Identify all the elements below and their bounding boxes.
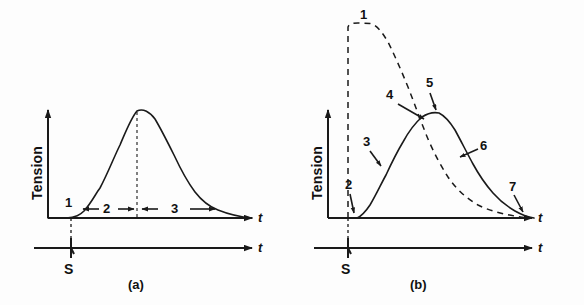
panel-a-label-2: 2: [103, 202, 110, 215]
panel-b-label-2: 2: [345, 178, 352, 191]
panel-a-tension-curve: [48, 110, 252, 218]
panel-b-curves: [348, 23, 534, 218]
panel-b-time-axis-label-lower: t: [538, 241, 542, 254]
panel-a-time-axis-label-upper: t: [258, 211, 262, 224]
panel-b-arrow-2: [350, 194, 354, 213]
panel-b-label-7: 7: [509, 180, 516, 193]
panel-b-caption: (b): [410, 278, 427, 291]
panel-a-curves: [48, 110, 252, 244]
panel-a-stimulus-label: S: [64, 262, 73, 276]
figure-canvas: Tension 1 2 3 t t S (a) Tension 1 2 3 4 …: [0, 0, 584, 305]
panel-a-label-1: 1: [65, 196, 72, 209]
panel-b-y-axis-title: Tension: [310, 146, 324, 200]
panel-b-arrow-4: [398, 104, 424, 119]
panel-b-label-4: 4: [386, 88, 393, 101]
panel-a-y-axis-title: Tension: [30, 146, 44, 200]
panel-a-caption: (a): [128, 278, 144, 291]
figure-vector-layer: [0, 0, 584, 305]
panel-a-axes: [34, 110, 252, 258]
panel-b-arrow-7: [514, 195, 523, 212]
panel-b-label-3: 3: [363, 135, 370, 148]
panel-b-arrow-3: [370, 151, 381, 166]
panel-b-calcium-transient-curve: [348, 23, 530, 218]
panel-b-label-1: 1: [360, 8, 367, 21]
panel-b-label-5: 5: [426, 76, 433, 89]
panel-a-time-axis-label-lower: t: [258, 241, 262, 254]
panel-b-time-axis-label-upper: t: [538, 211, 542, 224]
panel-b-arrow-5: [430, 93, 436, 110]
panel-b-label-6: 6: [480, 139, 487, 152]
panel-a-label-3: 3: [171, 202, 178, 215]
panel-b-stimulus-label: S: [341, 262, 350, 276]
